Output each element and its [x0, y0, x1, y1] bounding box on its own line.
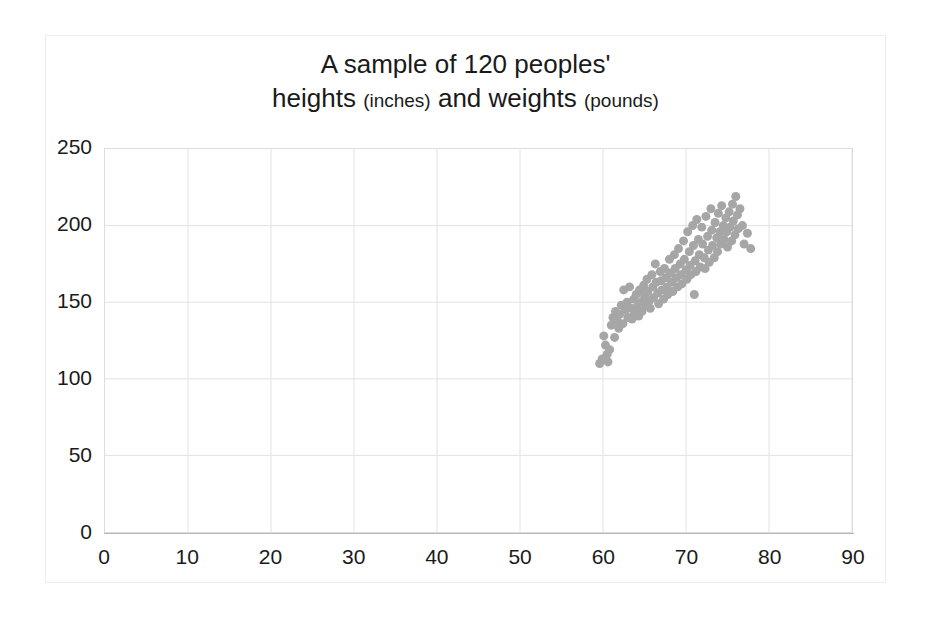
scatter-point: [728, 200, 737, 209]
scatter-point: [714, 209, 723, 218]
chart-figure: A sample of 120 peoples' heights (inches…: [0, 0, 931, 620]
x-axis-line: [104, 533, 854, 534]
y-axis-tick-label: 0: [32, 520, 92, 544]
chart-title-line-2: heights (inches) and weights (pounds): [45, 82, 886, 116]
chart-title-heights: heights: [272, 83, 356, 113]
chart-title-inches-unit: (inches): [363, 90, 431, 111]
scatter-point: [651, 259, 660, 268]
scatter-point: [603, 357, 612, 366]
scatter-point: [679, 236, 688, 245]
y-axis-tick-label: 100: [32, 366, 92, 390]
chart-title: A sample of 120 peoples' heights (inches…: [45, 48, 886, 116]
chart-title-line-1: A sample of 120 peoples': [45, 48, 886, 82]
x-axis-tick-label: 80: [740, 545, 800, 569]
x-axis-tick-label: 50: [490, 545, 550, 569]
x-axis-tick-label: 60: [573, 545, 633, 569]
plot-area: [104, 148, 853, 533]
scatter-point: [674, 244, 683, 253]
y-axis-tick-label: 150: [32, 289, 92, 313]
scatter-point: [746, 244, 755, 253]
y-axis-tick-label: 250: [32, 135, 92, 159]
x-axis-tick-label: 70: [657, 545, 717, 569]
chart-title-and-weights: and weights: [438, 83, 577, 113]
y-axis-tick-label: 200: [32, 212, 92, 236]
x-axis-tick-label: 30: [324, 545, 384, 569]
x-axis-tick-label: 20: [240, 545, 300, 569]
x-axis-tick-label: 40: [407, 545, 467, 569]
x-axis-tick-label: 90: [823, 545, 883, 569]
x-axis-tick-label: 10: [157, 545, 217, 569]
scatter-point: [701, 212, 710, 221]
scatter-point: [717, 201, 726, 210]
x-axis-tick-label: 0: [74, 545, 134, 569]
scatter-point: [713, 247, 722, 256]
scatter-point: [738, 221, 747, 230]
scatter-point: [707, 226, 716, 235]
scatter-point: [646, 304, 655, 313]
scatter-point: [599, 331, 608, 340]
y-axis-tick-label: 50: [32, 443, 92, 467]
scatter-point: [647, 270, 656, 279]
scatter-points-layer: [105, 149, 852, 532]
scatter-point: [605, 345, 614, 354]
scatter-point: [731, 192, 740, 201]
scatter-point: [692, 215, 701, 224]
scatter-point: [720, 235, 729, 244]
scatter-point: [706, 204, 715, 213]
chart-title-pounds-unit: (pounds): [584, 90, 659, 111]
scatter-point: [697, 223, 706, 232]
scatter-point: [725, 207, 734, 216]
scatter-point: [625, 282, 634, 291]
scatter-point: [690, 290, 699, 299]
scatter-point: [735, 204, 744, 213]
scatter-point: [743, 229, 752, 238]
scatter-point: [711, 218, 720, 227]
scatter-point: [610, 333, 619, 342]
